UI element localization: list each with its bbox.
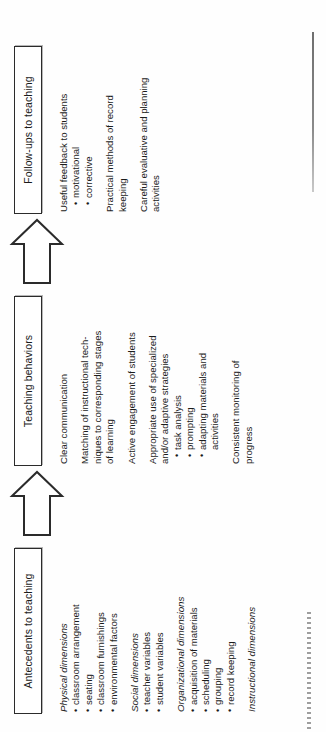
rotated-diagram-wrapper: Antecedents to teaching Physical dimensi…: [0, 0, 326, 732]
stage-body-teaching-behaviors: Clear communication Matching of instruct…: [58, 286, 255, 464]
group-consistent-monitoring: Consistent monitoring of progress: [230, 286, 255, 464]
group-title-clear-communication: Clear communication: [58, 286, 70, 464]
arrow-antecedents-to-behaviors: [10, 470, 64, 536]
list-item: classroom arrangement: [70, 538, 82, 712]
bullet-list-adaptive-strategies: task analysis prompting adapting materia…: [172, 286, 222, 464]
bullet-list-organizational-dimensions: acquisition of materials scheduling grou…: [188, 538, 238, 712]
stage-follow-ups-to-teaching: Follow-ups to teaching Useful feedback t…: [0, 32, 326, 214]
stage-header-label-follow-ups: Follow-ups to teaching: [22, 76, 34, 183]
stage-teaching-behaviors: Teaching behaviors Clear communication M…: [0, 288, 326, 466]
list-item: task analysis: [172, 286, 184, 464]
arrow-behaviors-to-followups: [10, 218, 64, 284]
group-adaptive-strategies: Appropriate use of specialized and/or ad…: [147, 286, 221, 464]
group-clear-communication: Clear communication: [58, 286, 70, 464]
list-item: adapting materials and activities: [197, 286, 222, 464]
list-item: prompting: [184, 286, 196, 464]
group-title-useful-feedback: Useful feedback to students: [58, 30, 70, 212]
group-title-record-keeping-methods: Practical methods of record keeping: [104, 30, 129, 212]
list-item: grouping: [212, 538, 224, 712]
bullet-list-useful-feedback: motivational corrective: [70, 30, 95, 212]
list-item: corrective: [83, 30, 95, 212]
group-useful-feedback: Useful feedback to students motivational…: [58, 30, 95, 212]
group-title-matching-instructional-techniques: Matching of instructional tech- niques t…: [79, 286, 116, 464]
list-item: acquisition of materials: [188, 538, 200, 712]
stage-header-box-antecedents: Antecedents to teaching: [14, 548, 42, 714]
list-item: teacher variables: [141, 538, 153, 712]
group-social-dimensions: Social dimensions teacher variables stud…: [129, 538, 166, 712]
group-title-physical-dimensions: Physical dimensions: [58, 538, 70, 712]
list-item: classroom furnishings: [95, 538, 107, 712]
list-item: environmental factors: [108, 538, 120, 712]
group-title-consistent-monitoring: Consistent monitoring of progress: [230, 286, 255, 464]
group-organizational-dimensions: Organizational dimensions acquisition of…: [175, 538, 237, 712]
group-title-evaluative-planning-activities: Careful evaluative and planning activiti…: [138, 30, 163, 212]
group-title-organizational-dimensions: Organizational dimensions: [175, 538, 187, 712]
group-active-engagement: Active engagement of students: [126, 286, 138, 464]
group-physical-dimensions: Physical dimensions classroom arrangemen…: [58, 538, 120, 712]
bullet-list-physical-dimensions: classroom arrangement seating classroom …: [70, 538, 120, 712]
figure-canvas: Antecedents to teaching Physical dimensi…: [0, 0, 326, 732]
group-evaluative-planning-activities: Careful evaluative and planning activiti…: [138, 30, 163, 212]
group-title-social-dimensions: Social dimensions: [129, 538, 141, 712]
stage-header-label-teaching-behaviors: Teaching behaviors: [22, 335, 34, 427]
group-record-keeping-methods: Practical methods of record keeping: [104, 30, 129, 212]
list-item: seating: [83, 538, 95, 712]
list-item: motivational: [70, 30, 82, 212]
bullet-list-social-dimensions: teacher variables student variables: [141, 538, 166, 712]
stage-body-antecedents: Physical dimensions classroom arrangemen…: [58, 538, 259, 712]
group-title-adaptive-strategies: Appropriate use of specialized and/or ad…: [147, 286, 172, 464]
list-item: student variables: [154, 538, 166, 712]
group-matching-instructional-techniques: Matching of instructional tech- niques t…: [79, 286, 116, 464]
stage-antecedents-to-teaching: Antecedents to teaching Physical dimensi…: [0, 540, 326, 714]
stage-header-box-follow-ups: Follow-ups to teaching: [14, 46, 42, 214]
list-item: record keeping: [225, 538, 237, 712]
group-title-active-engagement: Active engagement of students: [126, 286, 138, 464]
stage-header-label-antecedents: Antecedents to teaching: [22, 574, 34, 689]
group-title-instructional-dimensions: Instructional dimensions: [246, 538, 258, 712]
stage-header-box-teaching-behaviors: Teaching behaviors: [14, 296, 42, 466]
group-instructional-dimensions: Instructional dimensions: [246, 538, 258, 712]
list-item: scheduling: [200, 538, 212, 712]
stage-body-follow-ups: Useful feedback to students motivational…: [58, 30, 163, 212]
flowchart: Antecedents to teaching Physical dimensi…: [0, 0, 326, 732]
